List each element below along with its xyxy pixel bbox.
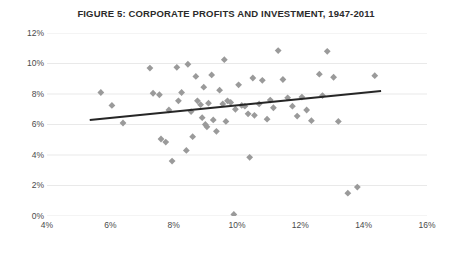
data-point <box>120 120 127 127</box>
x-tick-label: 12% <box>280 221 320 230</box>
data-point <box>294 113 301 120</box>
data-point <box>200 84 207 91</box>
data-point <box>264 116 271 123</box>
data-point <box>109 102 116 109</box>
data-point <box>185 61 192 68</box>
y-tick-label: 4% <box>4 151 44 160</box>
data-point <box>221 56 228 63</box>
chart-title: FIGURE 5: CORPORATE PROFITS AND INVESTME… <box>0 8 452 19</box>
y-tick-label: 2% <box>4 181 44 190</box>
data-point <box>169 158 176 165</box>
data-point <box>335 118 342 125</box>
plot-area <box>47 33 427 216</box>
data-point <box>178 89 185 96</box>
data-point <box>330 74 337 81</box>
data-point <box>371 72 378 79</box>
x-tick-label: 8% <box>154 221 194 230</box>
data-point <box>344 190 351 197</box>
scatter-plot-svg <box>47 33 427 216</box>
data-point <box>205 100 212 107</box>
data-point-markers <box>97 47 378 216</box>
data-point <box>303 107 310 114</box>
y-tick-label: 10% <box>4 59 44 68</box>
data-point <box>280 76 287 83</box>
data-point <box>308 117 315 124</box>
x-tick-label: 16% <box>407 221 447 230</box>
x-axis: 4%6%8%10%12%14%16% <box>47 221 427 235</box>
figure-container: FIGURE 5: CORPORATE PROFITS AND INVESTME… <box>0 0 452 259</box>
data-point <box>199 114 206 121</box>
data-point <box>156 91 163 98</box>
data-point <box>245 110 252 117</box>
data-point <box>147 65 154 72</box>
caption-partial <box>40 249 420 255</box>
data-point <box>213 128 220 135</box>
data-point <box>232 106 239 113</box>
data-point <box>150 90 157 97</box>
data-point <box>316 71 323 78</box>
y-tick-label: 0% <box>4 212 44 221</box>
trendline-segment <box>90 91 381 120</box>
data-point <box>249 75 256 82</box>
trendline <box>90 91 381 120</box>
data-point <box>192 73 199 80</box>
data-point <box>251 112 258 119</box>
data-point <box>173 64 180 71</box>
data-point <box>324 48 331 55</box>
data-point <box>208 72 215 79</box>
data-point <box>189 133 196 140</box>
data-point <box>183 147 190 154</box>
data-point <box>175 97 182 104</box>
x-tick-label: 14% <box>344 221 384 230</box>
data-point <box>97 89 104 96</box>
x-tick-label: 4% <box>27 221 67 230</box>
data-point <box>289 103 296 110</box>
x-tick-label: 6% <box>90 221 130 230</box>
data-point <box>275 47 282 54</box>
data-point <box>270 104 277 111</box>
gridlines <box>47 33 427 216</box>
data-point <box>259 77 266 84</box>
data-point <box>230 211 237 216</box>
y-tick-label: 12% <box>4 29 44 38</box>
y-tick-label: 8% <box>4 90 44 99</box>
data-point <box>354 184 361 191</box>
y-tick-label: 6% <box>4 120 44 129</box>
data-point <box>223 118 230 125</box>
data-point <box>216 87 223 94</box>
data-point <box>210 117 217 124</box>
x-tick-label: 10% <box>217 221 257 230</box>
data-point <box>235 81 242 88</box>
